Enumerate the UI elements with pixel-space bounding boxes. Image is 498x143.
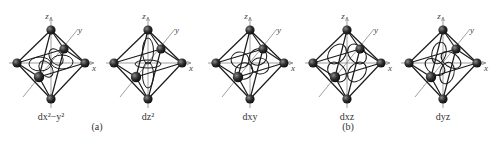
- ligand-sphere: [279, 58, 288, 67]
- ligand-sphere: [12, 58, 21, 67]
- axis-label-z: z: [45, 11, 49, 21]
- axis-label-z: z: [142, 11, 146, 21]
- ligand-sphere: [404, 58, 413, 67]
- axis-label-z: z: [341, 11, 345, 21]
- ligand-sphere: [233, 72, 243, 82]
- ligand-sphere: [438, 25, 447, 34]
- axis-label-x: x: [189, 63, 193, 73]
- ligand-sphere: [80, 58, 89, 67]
- ligand-sphere: [131, 72, 141, 82]
- axis-label-x: x: [291, 63, 295, 73]
- ligand-sphere: [46, 25, 55, 34]
- axis-label-y: y: [470, 25, 474, 35]
- ligand-sphere: [143, 94, 152, 103]
- ligand-sphere: [109, 58, 118, 67]
- axis-label-x: x: [484, 63, 488, 73]
- ligand-sphere: [342, 94, 351, 103]
- orbital-label-dyz: dyz: [436, 111, 450, 122]
- ligand-sphere: [438, 94, 447, 103]
- part-label: (a): [91, 121, 102, 132]
- ligand-sphere: [308, 58, 317, 67]
- orbital-label-dx2-y2: dx²−y²: [38, 111, 65, 122]
- ligand-sphere: [177, 58, 186, 67]
- axis-label-y: y: [374, 25, 378, 35]
- ligand-sphere: [258, 44, 267, 53]
- ligand-sphere: [46, 94, 55, 103]
- axis-label-x: x: [92, 63, 96, 73]
- orbital-label-dz2: dz²: [142, 111, 154, 122]
- ligand-sphere: [355, 44, 364, 53]
- axis-label-y: y: [175, 25, 179, 35]
- ligand-sphere: [211, 58, 220, 67]
- axis-label-z: z: [244, 11, 248, 21]
- axis-label-y: y: [277, 25, 281, 35]
- ligand-sphere: [342, 25, 351, 34]
- ligand-sphere: [59, 44, 68, 53]
- axis-label-y: y: [78, 25, 82, 35]
- part-label: (b): [342, 121, 354, 132]
- ligand-sphere: [34, 72, 44, 82]
- ligand-sphere: [245, 25, 254, 34]
- axis-label-z: z: [437, 11, 441, 21]
- ligand-sphere: [330, 72, 340, 82]
- ligand-sphere: [245, 94, 254, 103]
- axis-label-x: x: [388, 63, 392, 73]
- ligand-sphere: [451, 44, 460, 53]
- ligand-sphere: [376, 58, 385, 67]
- ligand-sphere: [472, 58, 481, 67]
- ligand-sphere: [426, 72, 436, 82]
- ligand-sphere: [143, 25, 152, 34]
- orbital-label-dxy: dxy: [243, 111, 258, 122]
- ligand-sphere: [156, 44, 165, 53]
